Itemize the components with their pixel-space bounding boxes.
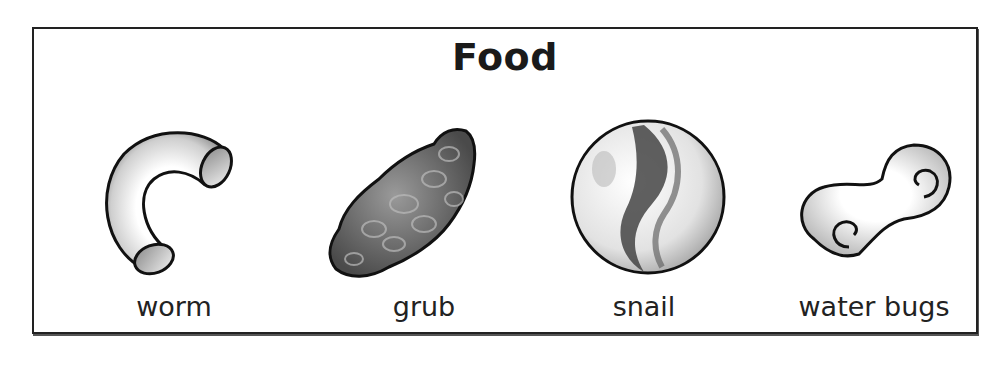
food-item-snail: snail bbox=[544, 109, 744, 329]
swirl-pasta-icon bbox=[774, 109, 974, 289]
food-panel: Food worm bbox=[32, 27, 978, 334]
food-label: water bugs bbox=[774, 291, 974, 322]
food-label: worm bbox=[74, 291, 274, 322]
macaroni-tube-icon bbox=[74, 109, 274, 289]
food-item-grub: grub bbox=[324, 109, 524, 329]
food-item-water-bugs: water bugs bbox=[774, 109, 974, 329]
food-label: snail bbox=[544, 291, 744, 322]
food-label: grub bbox=[324, 291, 524, 322]
lumpy-rock-icon bbox=[324, 109, 524, 289]
marble-icon bbox=[544, 109, 744, 289]
panel-title: Food bbox=[34, 35, 976, 79]
food-item-worm: worm bbox=[74, 109, 274, 329]
